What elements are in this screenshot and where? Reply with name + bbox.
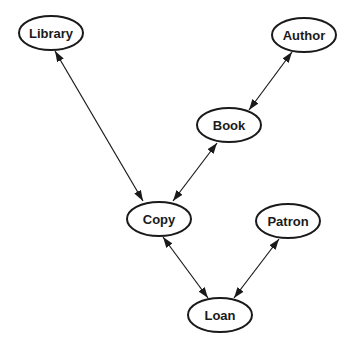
edge-library-copy	[55, 51, 143, 201]
node-loan: Loan	[188, 298, 252, 332]
node-copy: Copy	[127, 202, 191, 236]
node-author: Author	[272, 18, 336, 52]
node-label-author: Author	[283, 28, 326, 43]
er-diagram: Library Author Book Copy Patron Loan	[0, 0, 352, 348]
edge-author-book	[249, 52, 292, 110]
node-patron: Patron	[256, 204, 320, 238]
node-label-patron: Patron	[267, 214, 308, 229]
edge-copy-loan	[163, 237, 208, 298]
node-label-copy: Copy	[143, 212, 176, 227]
node-label-library: Library	[29, 26, 74, 41]
node-label-book: Book	[213, 118, 246, 133]
node-library: Library	[19, 16, 83, 50]
edge-book-copy	[173, 143, 217, 201]
edge-patron-loan	[234, 239, 279, 298]
node-book: Book	[197, 108, 261, 142]
node-label-loan: Loan	[204, 308, 235, 323]
